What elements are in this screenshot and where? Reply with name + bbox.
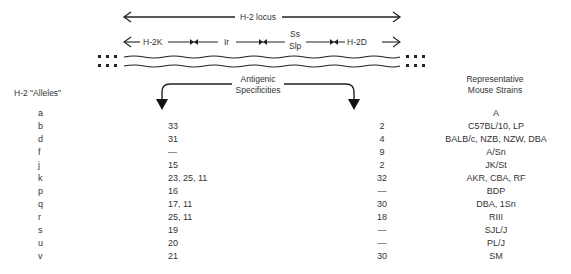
table-row: aA (0, 107, 571, 120)
allele-cell: u (38, 237, 48, 250)
antigenic-specificities-label: Antigenic Specificities (228, 74, 288, 96)
table-row: d314BALB/c, NZB, NZW, DBA (0, 133, 571, 146)
allele-cell: v (38, 250, 48, 263)
table-row: k23, 25, 1132AKR, CBA, RF (0, 172, 571, 185)
strain-cell: SJL/J (426, 224, 566, 237)
strain-cell: PL/J (426, 237, 566, 250)
table-row: r25, 1118RIII (0, 211, 571, 224)
k-specificity-cell: 33 (168, 120, 178, 133)
k-specificity-cell: 15 (168, 159, 178, 172)
allele-cell: j (38, 159, 48, 172)
table-row: v2130SM (0, 250, 571, 263)
alleles-header: H-2 "Alleles" (14, 88, 61, 98)
d-specificity-cell: — (372, 185, 392, 198)
allele-cell: d (38, 133, 48, 146)
antigenic-label-line2: Specificities (228, 85, 288, 96)
k-specificity-cell: 23, 25, 11 (168, 172, 207, 185)
region-label-ss: Ss (290, 29, 300, 39)
strain-cell: BALB/c, NZB, NZW, DBA (426, 133, 566, 146)
k-specificity-cell: 31 (168, 133, 178, 146)
chromosome-strands (124, 56, 400, 67)
table-row: j152JK/St (0, 159, 571, 172)
strain-cell: SM (426, 250, 566, 263)
region-label-slp: Slp (289, 41, 301, 51)
table-row: q17, 1130DBA, 1Sn (0, 198, 571, 211)
strains-header: Representative Mouse Strains (445, 74, 545, 96)
d-specificity-cell: 30 (372, 198, 392, 211)
k-specificity-cell: 21 (168, 250, 178, 263)
d-specificity-cell: — (372, 224, 392, 237)
d-specificity-cell: 18 (372, 211, 392, 224)
table-row: u20—PL/J (0, 237, 571, 250)
d-specificity-cell: 9 (372, 146, 392, 159)
allele-cell: s (38, 224, 48, 237)
d-specificity-cell: 30 (372, 250, 392, 263)
strain-cell: A/Sn (426, 146, 566, 159)
allele-cell: a (38, 107, 48, 120)
k-specificity-cell: 16 (168, 185, 178, 198)
k-specificity-cell: 25, 11 (168, 211, 192, 224)
strain-cell: DBA, 1Sn (426, 198, 566, 211)
allele-cell: k (38, 172, 48, 185)
d-specificity-cell: 2 (372, 159, 392, 172)
strains-header-line2: Mouse Strains (445, 85, 545, 96)
strain-cell: RIII (426, 211, 566, 224)
table-row: s19—SJL/J (0, 224, 571, 237)
strain-cell: BDP (426, 185, 566, 198)
allele-cell: q (38, 198, 48, 211)
k-specificity-cell: 20 (168, 237, 178, 250)
k-specificity-cell: 17, 11 (168, 198, 192, 211)
strains-header-line1: Representative (445, 74, 545, 85)
region-label-ir: Ir (224, 37, 229, 47)
k-specificity-cell: — (168, 146, 177, 159)
region-label-h2k: H-2K (143, 37, 162, 47)
d-specificity-cell: — (372, 237, 392, 250)
d-specificity-cell: 4 (372, 133, 392, 146)
strain-cell: C57BL/10, LP (426, 120, 566, 133)
table-row: f—9A/Sn (0, 146, 571, 159)
region-label-h2d: H-2D (347, 37, 367, 47)
table-row: b332C57BL/10, LP (0, 120, 571, 133)
d-specificity-cell: 32 (372, 172, 392, 185)
table-row: p16—BDP (0, 185, 571, 198)
antigenic-label-line1: Antigenic (228, 74, 288, 85)
k-specificity-cell: 19 (168, 224, 178, 237)
d-specificity-cell: 2 (372, 120, 392, 133)
strain-cell: A (426, 107, 566, 120)
strain-cell: JK/St (426, 159, 566, 172)
locus-label: H-2 locus (238, 12, 278, 22)
allele-cell: f (38, 146, 48, 159)
strain-cell: AKR, CBA, RF (426, 172, 566, 185)
allele-cell: p (38, 185, 48, 198)
allele-cell: b (38, 120, 48, 133)
allele-cell: r (38, 211, 48, 224)
